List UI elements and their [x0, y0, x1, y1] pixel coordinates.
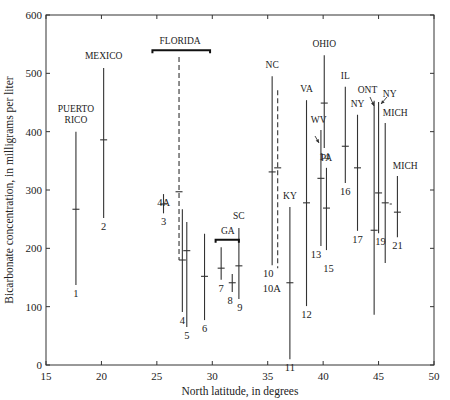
y-tick-label: 100: [26, 301, 43, 313]
region-label: GA: [221, 226, 235, 236]
bar-id-label: 9: [237, 302, 242, 313]
range-bar-4: 4: [179, 209, 186, 326]
region-label: SC: [233, 211, 245, 221]
bar-id-label: 7: [219, 283, 224, 294]
x-tick-label: 45: [373, 370, 385, 382]
x-tick-label: 40: [318, 370, 330, 382]
bar-id-label: 10: [263, 268, 274, 279]
x-tick-label: 35: [262, 370, 274, 382]
range-bar-11: 11: [285, 207, 295, 373]
bar-id-label: 21: [392, 240, 403, 251]
range-bar-12: 12: [301, 100, 312, 320]
y-tick-label: 200: [26, 242, 43, 254]
bar-id-label: 15: [323, 263, 334, 274]
bar-id-label: 11: [285, 362, 295, 373]
region-label: MICH: [383, 108, 408, 118]
range-bar-1: 1: [72, 132, 79, 299]
range-bar-16: 16: [340, 87, 351, 197]
bar-id-label: 4A: [157, 197, 170, 208]
bar-id-label: 1: [73, 288, 78, 299]
region-label: ONT: [358, 85, 378, 95]
range-bar-6: 6: [201, 234, 208, 334]
region-label: MICH: [393, 161, 418, 171]
bar-id-label: 13: [311, 249, 322, 260]
range-bar-19: 19: [375, 102, 386, 247]
region-label: MEXICO: [85, 51, 123, 61]
range-bar-13: 13: [311, 130, 325, 260]
region-label: PUERTO: [58, 104, 94, 114]
bar-id-label: 3: [161, 216, 166, 227]
bar-id-label: 17: [352, 234, 363, 245]
range-bar-4A: 4A: [157, 57, 182, 260]
region-bracket: [216, 240, 239, 243]
bar-id-label: 19: [375, 236, 386, 247]
region-label: FLORIDA: [160, 36, 201, 46]
range-bar-8: 8: [228, 274, 236, 306]
y-tick-label: 400: [26, 126, 43, 138]
bar-id-label: 5: [184, 330, 189, 341]
range-bar-21: 21: [392, 176, 403, 251]
region-bracket: [152, 50, 210, 53]
range-bar-7: 7: [218, 247, 225, 294]
bar-id-label: 2: [101, 221, 106, 232]
region-label: RICO: [65, 115, 88, 125]
bar-id-label: 6: [202, 323, 207, 334]
range-bar-15: 15: [323, 168, 334, 274]
x-tick-label: 20: [96, 370, 108, 382]
bar-id-label: 10A: [263, 283, 282, 294]
x-tick-label: 30: [207, 370, 219, 382]
range-bar-18: [371, 101, 378, 315]
y-tick-label: 500: [26, 67, 43, 79]
region-label: WV: [311, 115, 327, 125]
range-bar-10: 10: [263, 76, 276, 279]
y-tick-label: 0: [37, 359, 43, 371]
region-label: KY: [283, 191, 297, 201]
region-label: NY: [351, 99, 365, 109]
region-label: NC: [266, 60, 279, 70]
x-axis-label: North latitude, in degrees: [182, 385, 299, 398]
x-tick-label: 25: [151, 370, 163, 382]
y-axis-label: Bicarbonate concentration, in milligrams…: [3, 76, 16, 304]
y-tick-label: 600: [26, 9, 43, 21]
range-bar-2: 2: [100, 68, 107, 232]
region-label: OHIO: [312, 39, 336, 49]
x-tick-label: 15: [41, 370, 53, 382]
bar-id-label: 16: [340, 186, 351, 197]
y-tick-label: 300: [26, 184, 43, 196]
region-label: PA: [321, 153, 332, 163]
region-label: NY: [383, 89, 397, 99]
bar-id-label: 8: [228, 295, 233, 306]
region-label: IL: [341, 71, 350, 81]
bicarbonate-latitude-chart: 15202530354045500100200300400500600North…: [0, 0, 450, 400]
x-tick-label: 50: [429, 370, 441, 382]
bar-id-label: 4: [180, 315, 186, 326]
bar-id-label: 12: [301, 309, 312, 320]
region-label: VA: [300, 84, 313, 94]
range-bar-17: 17: [352, 115, 363, 245]
